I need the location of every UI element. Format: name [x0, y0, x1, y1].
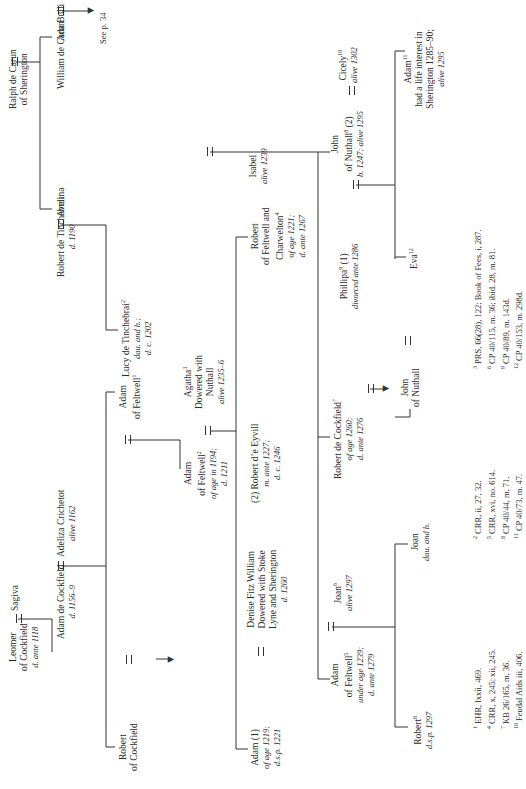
person-phillipa: Phillipa9 (1) divorced ante 1286: [336, 244, 361, 309]
footnotes-column-2: 2 CRR, ii, 27, 32. 5 CRR, xvi, no. 614. …: [470, 470, 525, 539]
tree-lines: [0, 0, 526, 789]
person-ada-bulli: Ada Bulli: [56, 4, 67, 41]
person-adeliza-crichetot: Adeliza Crichetot alive 1162: [56, 490, 78, 557]
person-avelina: Avelina: [56, 188, 67, 217]
person-robert-8: Robert8 d.s.p. 1297: [410, 712, 435, 749]
footnote: 11 CP 40/73, m. 47.: [511, 470, 525, 539]
footnote: 8 CP 40/44, m. 71.: [498, 470, 512, 539]
marriage-symbol: [16, 614, 22, 623]
marriage-symbol: [205, 426, 211, 435]
person-adam-de-cockfield: Adam de Cockfield d. 1156–9: [56, 565, 78, 639]
marriage-symbol: [328, 622, 334, 631]
person-john-of-nuthall-8: John of Nuthall8 (2) b. 1247; alive 1295: [330, 111, 366, 177]
marriage-symbol: [368, 384, 374, 393]
person-robert-de-cockfield-7: Robert de Cockfield7 of age 1260; d. ant…: [330, 399, 366, 479]
person-robert-of-feltwell: Robert of Feltwell and Charwelton4 of ag…: [250, 207, 308, 265]
person-denise-fitz-william: Denise Fitz William Dowered with Stoke L…: [246, 550, 290, 629]
arrow-down-icon: ▼: [380, 383, 391, 394]
person-adam-of-feltwell-5: Adam of Feltwell5 under age 1239; d. ant…: [330, 647, 377, 703]
person-lucy-de-tinchebrai: Lucy de Tinchebrai2 dau. and h.; d. c. 1…: [118, 300, 154, 377]
footnote: 3 PRS, 66(28), 122; Book of Fees, i, 287…: [470, 229, 484, 369]
person-adam-of-feltwell-2: Adam of Feltwell2 of age in 1194; d. 121…: [183, 448, 230, 499]
person-robert-de-eyvill: (2) Robert d’e Eyvill m. ante 1227; d. c…: [250, 424, 283, 503]
person-adam-1: Adam (1) of age 1219; d.s.p. 1221: [250, 726, 283, 769]
marriage-symbol: [125, 435, 131, 444]
footnote: 2 CRR, ii, 27, 32.: [470, 470, 484, 539]
person-cicely: Cicely10 alive 1302: [335, 47, 360, 83]
footnote: 10 Feudal Aids iii, 406.: [511, 649, 525, 729]
genealogy-diagram: ▼ ▼ ▼ See p. 34 Leomer of Cockfield d. a…: [0, 0, 526, 789]
marriage-symbol: [126, 655, 132, 664]
footnote: 6 CP 40/115, m. 36; ibid. 28, m. 81.: [484, 229, 498, 369]
footnote: 9 CP 40/89, m. 143d.: [498, 229, 512, 369]
footnote: 4 CRR, x, 245; xii, 245.: [484, 649, 498, 729]
footnote: 12 CP 40/153, m. 298d.: [511, 229, 525, 369]
person-isabel: Isabel alive 1239: [248, 148, 270, 184]
person-john-of-nuthall: John of Nuthall: [400, 368, 422, 407]
person-eva: Eva12: [406, 248, 420, 269]
marriage-symbol: [258, 647, 264, 656]
marriage-symbol: [349, 86, 355, 95]
person-adam-of-feltwell-1: Adam of Feltwell1: [118, 375, 143, 419]
person-sagiva: Sagiva: [10, 585, 21, 611]
arrow-down-icon: ▼: [85, 5, 96, 16]
person-leomer: Leomer of Cockfield d. ante 1118: [8, 623, 41, 671]
person-ralph-de-carun: Ralph de Carun of Sherington: [8, 49, 30, 109]
person-adam-11: Adam11 had a life interest in Sherington…: [400, 29, 447, 109]
footnote: 5 CRR, xvi, no. 614.: [484, 470, 498, 539]
marriage-symbol: [207, 147, 213, 156]
footnotes-column-1: 1 EHR, lxxii, 469. 4 CRR, x, 245; xii, 2…: [470, 649, 525, 729]
person-joan-6: Joan6 alive 1297: [330, 575, 355, 611]
person-joan-daughter: Joan dau. and h.: [410, 523, 432, 561]
footnotes-column-3: 3 PRS, 66(28), 122; Book of Fees, i, 287…: [470, 229, 525, 369]
marriage-symbol: [353, 180, 359, 189]
person-robert-of-cockfield: Robert of Cockfield: [118, 723, 140, 771]
footnote: 7 KB 26/165, m. 36.: [498, 649, 512, 729]
marriage-symbol: [405, 336, 411, 345]
arrow-down-icon: ▼: [165, 654, 176, 665]
footnote: 1 EHR, lxxii, 469.: [470, 649, 484, 729]
see-page-reference: See p. 34: [98, 13, 108, 44]
person-agatha: Agatha3 Dowered with Nuthall alive 1235–…: [180, 355, 227, 409]
